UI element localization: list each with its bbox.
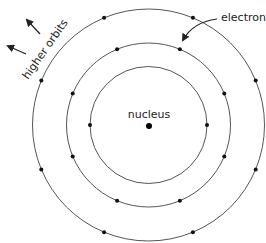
- electron-inner-1: [205, 123, 209, 127]
- electron-outer-1: [254, 167, 258, 171]
- electron-inner-2: [88, 123, 92, 127]
- electron-middle-7: [178, 47, 182, 51]
- nucleus: [146, 123, 152, 129]
- higher-orbits-arrow-2: [8, 46, 26, 54]
- nucleus-label: nucleus: [128, 108, 171, 121]
- electron-middle-6: [115, 47, 119, 51]
- electron-outer-8: [254, 79, 258, 83]
- electron-outer-4: [39, 167, 43, 171]
- electron-middle-2: [178, 199, 182, 203]
- electron-middle-3: [115, 199, 119, 203]
- electron-outer-2: [191, 230, 195, 234]
- electron-outer-7: [191, 16, 195, 20]
- bohr-atom-diagram: nucleus electrons higher orbits: [0, 0, 266, 243]
- electron-middle-4: [71, 154, 75, 158]
- electron-outer-6: [102, 16, 106, 20]
- electron-middle-5: [71, 92, 75, 96]
- electrons-pointer-arrow: [183, 19, 217, 40]
- electron-outer-3: [102, 230, 106, 234]
- higher-orbits-arrow-1: [27, 20, 40, 34]
- electron-middle-1: [222, 154, 226, 158]
- electron-middle-8: [222, 92, 226, 96]
- electrons-label: electrons: [221, 11, 266, 24]
- electron-outer-5: [39, 79, 43, 83]
